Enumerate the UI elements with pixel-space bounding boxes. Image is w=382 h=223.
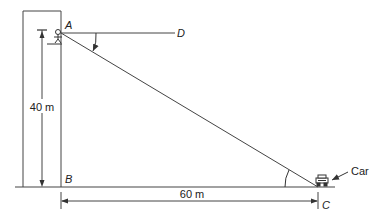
distance-label: 60 m: [180, 188, 204, 200]
point-D-label: D: [177, 27, 185, 39]
angle-of-elevation-arc: [285, 170, 289, 187]
height-label: 40 m: [30, 101, 54, 113]
distance-dimension: 60 m: [61, 188, 318, 209]
point-C-label: C: [322, 199, 330, 211]
height-dimension: 40 m: [28, 30, 58, 187]
point-B-label: B: [65, 173, 72, 185]
car-icon: [316, 175, 328, 186]
height-distance-diagram: 40 m 60 m Car A B C D: [0, 0, 382, 223]
line-of-sight-AC: [61, 33, 318, 187]
angle-of-depression-arc: [93, 33, 96, 51]
point-A-label: A: [64, 19, 72, 31]
car-pointer-arrow: [332, 172, 348, 180]
observer-icon: [47, 30, 62, 45]
car-label: Car: [351, 165, 369, 177]
